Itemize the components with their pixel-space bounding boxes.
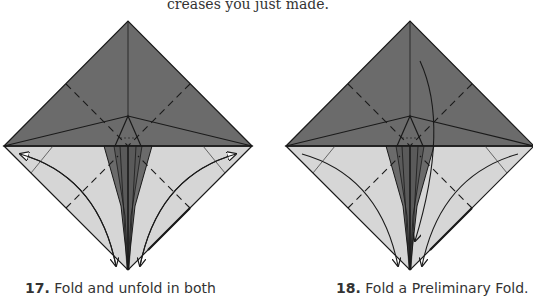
step-number: 18. [336, 280, 361, 296]
step-18-caption: 18. Fold a Preliminary Fold. [336, 280, 529, 296]
step-text: Fold a Preliminary Fold. [365, 280, 528, 296]
step-number: 17. [25, 280, 50, 296]
step-17-diagram [4, 21, 252, 270]
step-text: Fold and unfold in both [54, 280, 216, 296]
step-17-caption: 17. Fold and unfold in both [25, 280, 216, 296]
step-18-diagram [286, 21, 533, 270]
diagrams [0, 0, 533, 297]
